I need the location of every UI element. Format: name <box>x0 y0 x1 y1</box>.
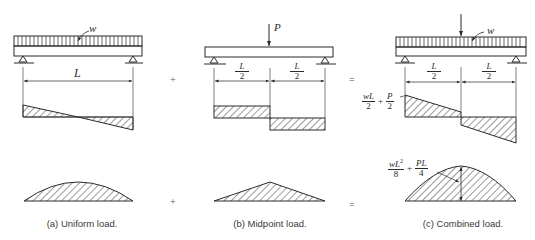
beam <box>205 47 333 57</box>
shear-diagram <box>23 105 133 130</box>
support-icon <box>204 57 336 64</box>
moment-diagram <box>214 182 325 201</box>
shear-diagram <box>214 106 325 130</box>
panel-a-uniform-load <box>14 31 143 201</box>
shear-max-annotation: wL 2 + P 2 <box>362 92 394 111</box>
equals-operator: = <box>349 74 355 85</box>
uniform-load-label: w <box>89 22 96 34</box>
caption-c: (c) Combined load. <box>408 218 518 229</box>
half-span-fraction-left: L 2 <box>235 62 249 81</box>
moment-diagram <box>24 182 133 201</box>
support-icon <box>14 56 143 63</box>
plus-operator: + <box>170 196 176 207</box>
span-label: L <box>74 66 81 81</box>
moment-max-annotation: wL2 8 + PL 4 <box>388 157 428 179</box>
annotation-leader <box>400 96 404 97</box>
panel-b-midpoint-load <box>204 24 336 201</box>
half-span-fraction-right: L 2 <box>290 62 304 81</box>
half-span-fraction-left: L 2 <box>427 62 441 81</box>
half-span-fraction-right: L 2 <box>482 62 496 81</box>
uniform-load-label: w <box>487 24 494 36</box>
caption-a: (a) Uniform load. <box>32 218 132 229</box>
point-load-label: P <box>274 21 281 33</box>
beam <box>14 46 142 56</box>
plus-operator: + <box>170 74 176 85</box>
equals-operator: = <box>349 199 355 210</box>
beam-superposition-diagram <box>0 0 535 240</box>
shear-diagram <box>405 95 516 143</box>
distributed-load-icon <box>396 37 526 47</box>
caption-b: (b) Midpoint load. <box>220 218 320 229</box>
beam <box>396 47 526 56</box>
support-icon <box>395 56 527 63</box>
